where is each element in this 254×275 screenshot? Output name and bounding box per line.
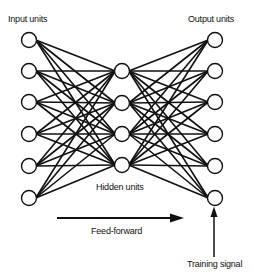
- hidden-units-label: Hidden units: [96, 182, 144, 192]
- connection-edge: [36, 40, 116, 71]
- input-unit-node: [22, 191, 37, 206]
- feed-forward-label: Feed-forward: [91, 226, 142, 236]
- output-unit-node: [208, 33, 223, 48]
- output-unit-node: [208, 159, 223, 174]
- input-unit-node: [22, 64, 37, 79]
- input-unit-node: [22, 127, 37, 142]
- input-unit-node: [22, 159, 37, 174]
- connection-edge: [129, 40, 209, 134]
- input-unit-node: [22, 33, 37, 48]
- connection-edge: [129, 40, 209, 71]
- output-unit-node: [208, 95, 223, 110]
- training-signal-label: Training signal: [187, 259, 242, 269]
- hidden-unit-node: [115, 158, 130, 173]
- input-units-label: Input units: [8, 14, 47, 24]
- input-unit-node: [22, 95, 37, 110]
- hidden-unit-node: [115, 96, 130, 111]
- connection-edge: [129, 165, 209, 166]
- feed-forward-arrow: [57, 214, 184, 223]
- output-unit-node: [208, 64, 223, 79]
- hidden-unit-node: [115, 64, 130, 79]
- training-signal-arrow: [211, 207, 218, 258]
- output-unit-node: [208, 127, 223, 142]
- output-units-label: Output units: [188, 14, 234, 24]
- output-unit-node: [208, 191, 223, 206]
- hidden-unit-node: [115, 127, 130, 142]
